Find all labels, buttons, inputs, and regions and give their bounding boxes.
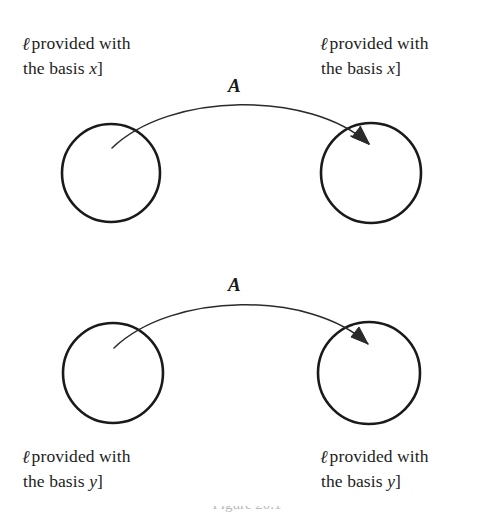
- label-bottom-right-line2-wrap: the basis y]: [320, 469, 429, 494]
- label-bottom-right: ℓprovided with the basis y]: [320, 443, 429, 494]
- circle-top-right: [321, 123, 421, 223]
- label-bottom-left-line2: the basis: [23, 471, 85, 491]
- caption-sliver: Figure 20.1: [0, 506, 494, 525]
- label-bottom-right-line2: the basis: [321, 471, 383, 491]
- label-bottom-left: ℓprovided with the basis y]: [22, 443, 131, 494]
- label-bottom-left-line2-wrap: the basis y]: [22, 469, 131, 494]
- caption-text: Figure 20.1: [212, 506, 281, 513]
- script-v-icon: ℓ: [320, 33, 330, 54]
- bracket-bottom-left: ]: [97, 471, 103, 491]
- basis-symbol-top-right: x: [387, 58, 395, 78]
- circle-bottom-right: [318, 322, 420, 424]
- label-bottom-left-line1: provided with: [32, 446, 131, 466]
- basis-symbol-bottom-right: y: [387, 471, 395, 491]
- basis-symbol-bottom-left: y: [89, 471, 97, 491]
- figure-canvas: ℓprovided with the basis x] ℓprovided wi…: [0, 0, 494, 525]
- arrow-label-bottom: A: [228, 274, 241, 296]
- bracket-top-right: ]: [395, 58, 401, 78]
- label-bottom-right-line1: provided with: [330, 446, 429, 466]
- script-v-icon: ℓ: [22, 446, 32, 467]
- arrow-top-shaft: [112, 105, 369, 148]
- arrow-label-top: A: [228, 75, 241, 97]
- bracket-top-left: ]: [97, 58, 103, 78]
- label-top-right: ℓprovided with the basis x]: [320, 30, 429, 81]
- circle-top-left: [62, 124, 160, 222]
- label-top-left-line1: provided with: [32, 33, 131, 53]
- label-top-right-line1: provided with: [330, 33, 429, 53]
- label-top-right-line2-wrap: the basis x]: [320, 56, 429, 81]
- basis-symbol-top-left: x: [89, 58, 97, 78]
- label-top-right-line2: the basis: [321, 58, 383, 78]
- label-top-left-line2-wrap: the basis x]: [22, 56, 131, 81]
- arrow-bottom-head-fill: [351, 327, 368, 344]
- circle-bottom-left: [63, 323, 163, 423]
- bracket-bottom-right: ]: [395, 471, 401, 491]
- arrow-top-head-fill: [352, 127, 369, 144]
- script-v-icon: ℓ: [320, 446, 330, 467]
- script-v-icon: ℓ: [22, 33, 32, 54]
- label-top-left: ℓprovided with the basis x]: [22, 30, 131, 81]
- label-top-left-line2: the basis: [23, 58, 85, 78]
